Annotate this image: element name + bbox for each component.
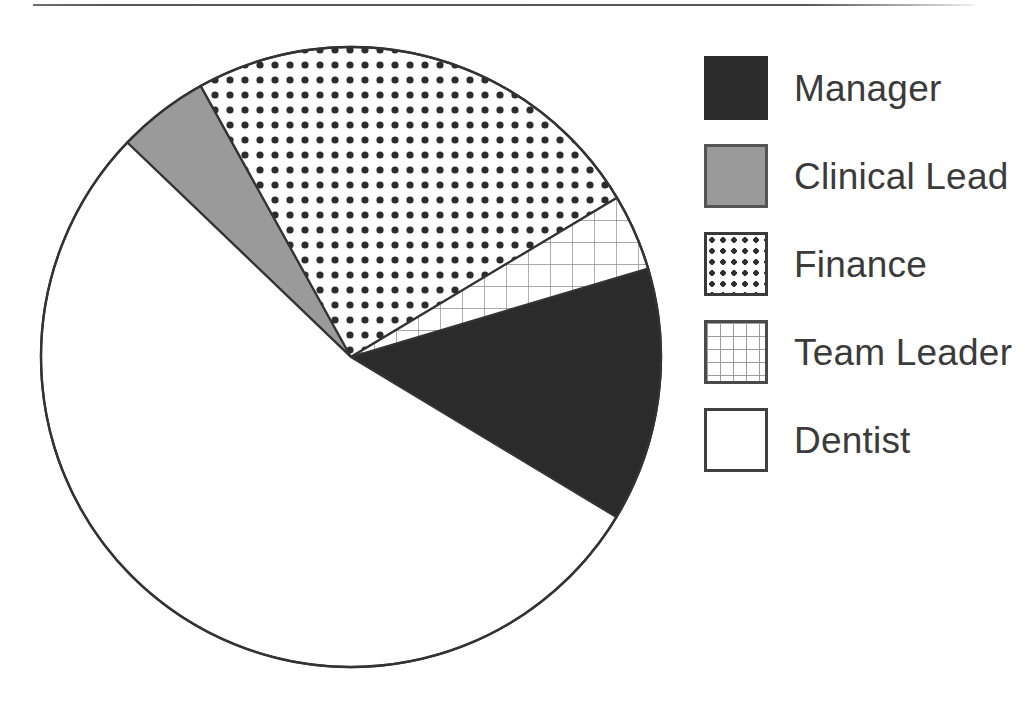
legend-label-dentist: Dentist <box>794 422 911 459</box>
legend-swatch-dotted-icon <box>704 232 768 296</box>
legend-item-dentist[interactable]: Dentist <box>704 396 1004 484</box>
chart-legend: Manager Clinical Lead Finance Team Leade… <box>704 44 1004 484</box>
pie-chart-svg <box>0 0 700 706</box>
legend-item-finance[interactable]: Finance <box>704 220 1004 308</box>
legend-item-clinical-lead[interactable]: Clinical Lead <box>704 132 1004 220</box>
legend-item-manager[interactable]: Manager <box>704 44 1004 132</box>
figure-page: Manager Clinical Lead Finance Team Leade… <box>0 0 1026 706</box>
legend-swatch-grid-icon <box>704 320 768 384</box>
pie-chart-area <box>0 0 700 706</box>
legend-label-clinical-lead: Clinical Lead <box>794 158 1008 195</box>
legend-label-manager: Manager <box>794 70 941 107</box>
legend-label-team-leader: Team Leader <box>794 334 1012 371</box>
legend-swatch-blank-icon <box>704 408 768 472</box>
pie-slices-group <box>41 47 661 667</box>
legend-swatch-gray-icon <box>704 144 768 208</box>
legend-label-finance: Finance <box>794 246 927 283</box>
legend-swatch-solid-icon <box>704 56 768 120</box>
legend-item-team-leader[interactable]: Team Leader <box>704 308 1004 396</box>
